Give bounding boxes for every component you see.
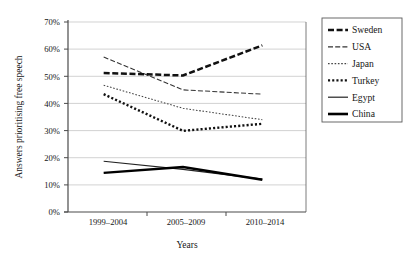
y-tick-label-20: 20%: [44, 153, 60, 163]
x-axis-title: Years: [176, 240, 198, 250]
x-tick-label-2: 2010–2014: [246, 217, 285, 227]
chart-figure: 70% 60% 50% 40% 30% 20% 10% 0% 1999–2004…: [0, 0, 407, 264]
legend-label-turkey: Turkey: [352, 75, 380, 86]
x-tick-label-0: 1999–2004: [89, 217, 128, 227]
y-tick-label-30: 30%: [44, 126, 60, 136]
x-axis-ticks: [147, 212, 226, 216]
plot-background: [68, 22, 306, 212]
y-tick-label-40: 40%: [44, 99, 60, 109]
y-tick-label-10: 10%: [44, 180, 60, 190]
y-tick-label-50: 50%: [44, 72, 60, 82]
y-tick-label-0: 0%: [49, 207, 60, 217]
legend-label-egypt: Egypt: [352, 92, 375, 103]
line-chart: 70% 60% 50% 40% 30% 20% 10% 0% 1999–2004…: [0, 0, 407, 264]
legend-label-japan: Japan: [352, 58, 374, 69]
legend-label-sweden: Sweden: [352, 24, 383, 35]
legend-label-china: China: [352, 108, 376, 119]
y-tick-label-70: 70%: [44, 17, 60, 27]
y-tick-label-60: 60%: [44, 44, 60, 54]
legend-label-usa: USA: [352, 41, 371, 52]
x-tick-label-1: 2005–2009: [167, 217, 206, 227]
y-axis-title: Answers prioritising free speech: [14, 55, 24, 178]
